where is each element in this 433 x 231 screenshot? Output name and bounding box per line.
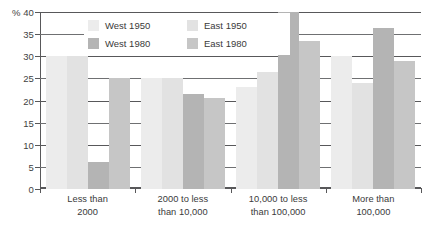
x-axis-label-line: 100,000	[326, 206, 421, 219]
legend-label: West 1950	[105, 20, 150, 31]
y-tick-label: 5	[29, 161, 34, 172]
legend-label: East 1950	[204, 20, 247, 31]
bar	[67, 56, 88, 189]
y-tick-label: 30	[23, 51, 34, 62]
bar-group	[326, 12, 421, 189]
x-axis-label-line: 2000	[40, 206, 135, 219]
chart-legend: West 1950East 1950West 1980East 1980	[84, 13, 290, 55]
y-tick-label: 10	[23, 139, 34, 150]
y-tick-label: % 40	[12, 7, 34, 18]
legend-item: West 1950	[88, 16, 187, 34]
bar	[352, 83, 373, 189]
y-tick-label: 15	[23, 117, 34, 128]
legend-swatch-icon	[187, 20, 198, 31]
bar	[394, 61, 415, 189]
x-axis-label-line: 10,000 to less	[249, 194, 308, 204]
x-tick-mark	[421, 188, 422, 193]
bar-chart: 05101520253035% 40 Less than20002000 to …	[0, 0, 433, 231]
x-axis-labels: Less than20002000 to lessthan 10,00010,0…	[40, 193, 421, 218]
bar	[299, 41, 320, 189]
legend-item: East 1950	[187, 16, 286, 34]
bar	[46, 56, 67, 189]
bar	[88, 162, 109, 189]
y-tick-label: 20	[23, 95, 34, 106]
x-axis-label-line: Less than	[67, 194, 108, 204]
x-axis-label-line: than 100,000	[231, 206, 326, 219]
x-axis-label: More than100,000	[326, 193, 421, 218]
x-axis-label: Less than2000	[40, 193, 135, 218]
x-axis-label-line: 2000 to less	[158, 194, 209, 204]
y-tick-label: 35	[23, 29, 34, 40]
legend-label: East 1980	[204, 38, 247, 49]
bar	[331, 56, 352, 189]
y-tick-label: 0	[29, 184, 34, 195]
bar	[183, 94, 204, 189]
x-axis-label-line: More than	[352, 194, 394, 204]
bar	[236, 87, 257, 189]
legend-swatch-icon	[88, 38, 99, 49]
bar	[141, 78, 162, 189]
legend-swatch-icon	[187, 38, 198, 49]
x-axis-label: 2000 to lessthan 10,000	[135, 193, 230, 218]
bar	[373, 28, 394, 190]
legend-item: East 1980	[187, 34, 286, 52]
bar	[162, 78, 183, 189]
x-axis-label: 10,000 to lessthan 100,000	[231, 193, 326, 218]
bar	[109, 78, 130, 189]
bar	[204, 98, 225, 189]
y-tick-label: 25	[23, 73, 34, 84]
bar	[257, 72, 278, 189]
legend-swatch-icon	[88, 20, 99, 31]
x-axis-label-line: than 10,000	[135, 206, 230, 219]
legend-label: West 1980	[105, 38, 150, 49]
legend-item: West 1980	[88, 34, 187, 52]
